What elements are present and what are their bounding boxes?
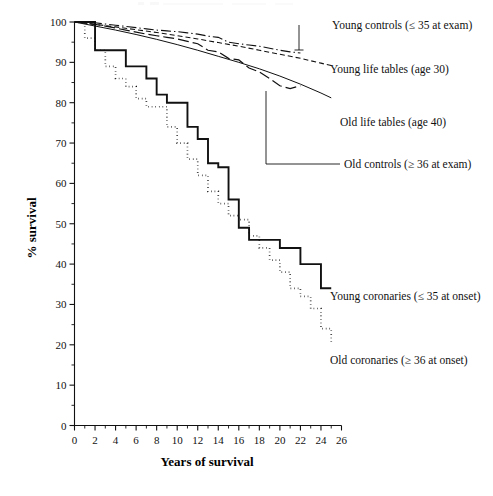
- x-tick-label-24: 24: [315, 434, 327, 446]
- series-young-1: [75, 22, 332, 66]
- data-series-layer: [75, 22, 332, 345]
- x-tick-label-14: 14: [213, 434, 225, 446]
- y-tick-label-40: 40: [56, 258, 68, 270]
- y-tick-label-70: 70: [56, 137, 68, 149]
- x-tick-label-2: 2: [92, 434, 98, 446]
- y-tick-label-20: 20: [56, 339, 68, 351]
- y-tick-label-30: 30: [56, 298, 68, 310]
- annotation-young-life-tables: Young life tables (age 30): [330, 63, 449, 76]
- y-tick-label-90: 90: [56, 56, 68, 68]
- x-tick-label-22: 22: [295, 434, 306, 446]
- x-tick-label-0: 0: [72, 434, 78, 446]
- chart-canvas: 0102030405060708090100 % survival 024681…: [0, 0, 493, 496]
- y-tick-label-100: 100: [50, 16, 67, 28]
- leader-old-controls: [266, 91, 340, 164]
- series-young-4: [75, 22, 332, 288]
- annotation-young-controls: Young controls (≤ 35 at exam): [332, 19, 472, 32]
- series-old-2: [75, 22, 301, 89]
- annotation-young-coronaries: Young coronaries (≤ 35 at onset): [330, 290, 481, 303]
- x-tick-label-6: 6: [133, 434, 139, 446]
- scan-artifact: [138, 2, 293, 5]
- x-tick-label-8: 8: [154, 434, 160, 446]
- annotation-old-coronaries: Old coronaries (≥ 36 at onset): [330, 354, 468, 367]
- series-old-5: [75, 22, 332, 345]
- y-tick-label-60: 60: [56, 177, 68, 189]
- y-axis: 0102030405060708090100 % survival: [24, 16, 75, 432]
- x-tick-label-20: 20: [274, 434, 286, 446]
- x-tick-label-16: 16: [233, 434, 245, 446]
- x-axis-title: Years of survival: [160, 454, 254, 469]
- y-tick-label-10: 10: [56, 379, 68, 391]
- leader-young-controls: [295, 25, 304, 50]
- y-tick-label-80: 80: [56, 97, 68, 109]
- x-tick-label-18: 18: [254, 434, 266, 446]
- annotation-old-life-tables: Old life tables (age 40): [340, 116, 446, 129]
- y-tick-label-50: 50: [56, 218, 68, 230]
- x-tick-label-4: 4: [113, 434, 119, 446]
- annotation-old-controls: Old controls (≥ 36 at exam): [344, 158, 472, 171]
- annotation-labels: Young controls (≤ 35 at exam) Young life…: [330, 19, 481, 367]
- x-axis-tick-labels: 02468101214161820222426: [72, 434, 348, 446]
- x-tick-label-12: 12: [192, 434, 203, 446]
- annotation-leaders: [266, 25, 340, 164]
- x-tick-label-26: 26: [336, 434, 348, 446]
- y-axis-tick-labels: 0102030405060708090100: [50, 16, 67, 432]
- x-axis: 02468101214161820222426 Years of surviva…: [72, 426, 348, 470]
- series-old-3: [75, 22, 332, 98]
- y-tick-label-0: 0: [61, 420, 67, 432]
- x-tick-label-10: 10: [172, 434, 184, 446]
- survival-chart-figure: 0102030405060708090100 % survival 024681…: [0, 0, 493, 496]
- y-axis-title: % survival: [24, 197, 39, 258]
